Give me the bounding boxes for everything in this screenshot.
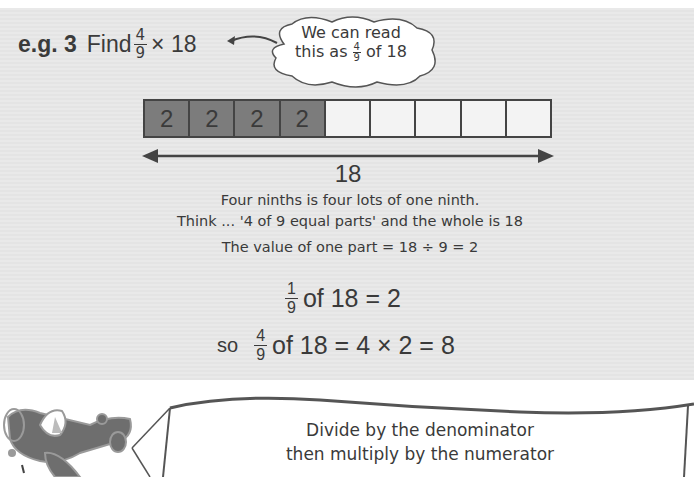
explanation-line1: Four ninths is four lots of one ninth.: [110, 190, 590, 211]
find-label: Find: [87, 31, 132, 58]
calculation-step1: 1 9 of 18 = 2: [283, 281, 401, 316]
explanation-text: Four ninths is four lots of one ninth. T…: [110, 190, 590, 258]
airplane-icon: [0, 395, 140, 477]
step2-fraction: 4 9: [254, 328, 267, 363]
fraction-denominator: 9: [256, 346, 265, 363]
fraction-numerator: 4: [134, 28, 148, 45]
step2-prefix: so: [217, 334, 238, 357]
callout-line1: We can read: [268, 24, 434, 42]
fraction-denominator: 9: [354, 53, 360, 63]
explanation-line2: Think ... '4 of 9 equal parts' and the w…: [110, 211, 590, 232]
callout-text: We can read this as 4 9 of 18: [268, 24, 434, 63]
banner-message: Divide by the denominator then multiply …: [200, 418, 640, 466]
bar-cell-shaded: 2: [145, 101, 190, 136]
bar-cell-empty: [371, 101, 416, 136]
callout-fraction: 4 9: [353, 42, 361, 63]
step1-fraction: 1 9: [285, 281, 298, 316]
heading-fraction: 4 9: [134, 28, 148, 61]
step2-text: of 18 = 4 × 2 = 8: [272, 331, 455, 360]
banner-line2: then multiply by the numerator: [200, 442, 640, 466]
step1-text: of 18 = 2: [303, 284, 401, 313]
example-heading: e.g. 3 Find 4 9 × 18: [18, 24, 197, 64]
bar-cell-shaded: 2: [235, 101, 280, 136]
explanation-line3: The value of one part = 18 ÷ 9 = 2: [110, 237, 590, 258]
bar-cell-empty: [326, 101, 371, 136]
bar-cell-empty: [416, 101, 461, 136]
fraction-denominator: 9: [287, 299, 296, 316]
calculation-step2: so 4 9 of 18 = 4 × 2 = 8: [217, 328, 455, 363]
callout-prefix: this as: [295, 42, 347, 61]
bar-cell-empty: [507, 101, 550, 136]
fraction-denominator: 9: [136, 45, 146, 61]
fraction-numerator: 1: [285, 281, 298, 299]
callout-suffix: of 18: [366, 42, 407, 61]
banner-line1: Divide by the denominator: [200, 418, 640, 442]
whole-value-label: 18: [318, 160, 378, 188]
callout-line2: this as 4 9 of 18: [268, 42, 434, 63]
bar-model: 2 2 2 2: [143, 99, 552, 138]
bar-cell-shaded: 2: [281, 101, 326, 136]
bar-cell-empty: [462, 101, 507, 136]
example-label: e.g. 3: [18, 31, 77, 58]
fraction-numerator: 4: [254, 328, 267, 346]
bar-cell-shaded: 2: [190, 101, 235, 136]
operator-text: × 18: [151, 31, 196, 58]
